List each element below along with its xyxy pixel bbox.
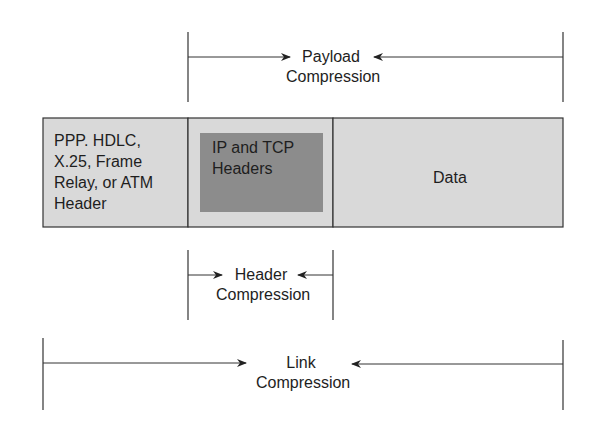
header-compression-label: Header Compression [216, 265, 306, 305]
data-label: Data [433, 167, 467, 189]
ip-tcp-line: Headers [212, 158, 294, 179]
link-label-line2: Compression [256, 373, 346, 393]
link-header-line: Header [54, 193, 153, 214]
link-header-line: Relay, or ATM [54, 172, 153, 193]
payload-label-line1: Payload [286, 47, 376, 67]
payload-compression-label: Payload Compression [286, 47, 376, 87]
link-header-text: PPP. HDLC, X.25, Frame Relay, or ATM Hea… [54, 130, 153, 214]
header-label-line1: Header [216, 265, 306, 285]
link-label-line1: Link [256, 353, 346, 373]
link-header-line: PPP. HDLC, [54, 130, 153, 151]
link-header-line: X.25, Frame [54, 151, 153, 172]
payload-label-line2: Compression [286, 67, 376, 87]
header-label-line2: Compression [216, 285, 306, 305]
link-compression-label: Link Compression [256, 353, 346, 393]
ip-tcp-line: IP and TCP [212, 137, 294, 158]
ip-tcp-headers-text: IP and TCP Headers [212, 137, 294, 179]
